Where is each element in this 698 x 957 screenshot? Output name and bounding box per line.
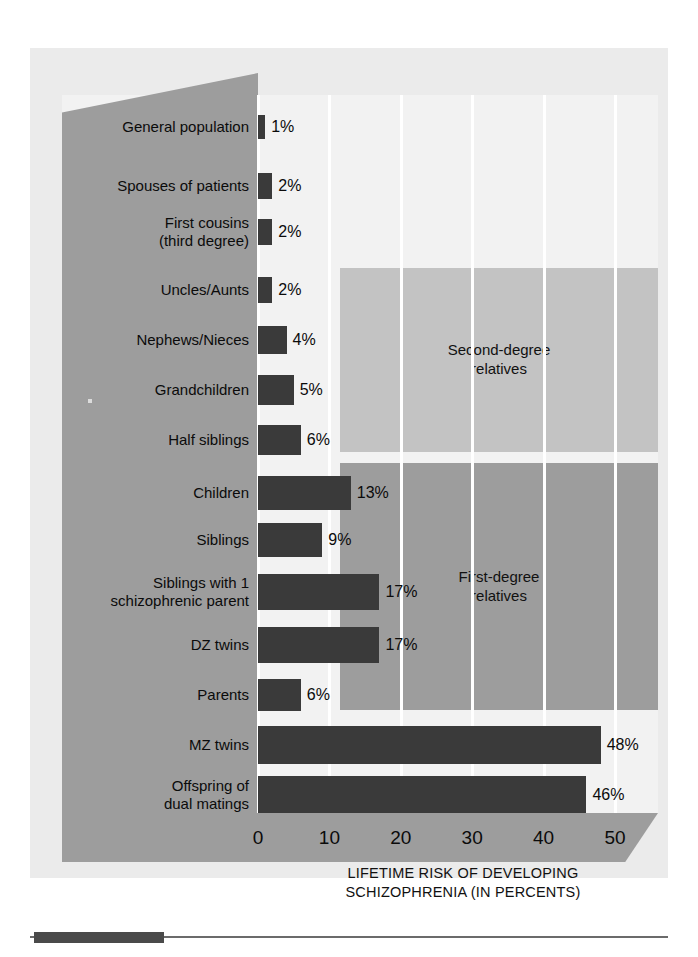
bar-row-label: DZ twins — [62, 636, 258, 654]
x-axis-tick-labels: 01020304050 — [0, 813, 698, 862]
bar-container: 5% — [258, 367, 658, 413]
bar — [258, 679, 301, 711]
x-tick-label-20: 20 — [390, 827, 411, 849]
bar-value-label: 2% — [278, 177, 301, 195]
bar-value-label: 9% — [328, 531, 351, 549]
bar — [258, 726, 601, 764]
bar-container: 17% — [258, 569, 658, 615]
bar-row-label: General population — [62, 118, 258, 136]
bar-container: 6% — [258, 672, 658, 718]
bar-row-label-line1: Uncles/Aunts — [62, 281, 249, 299]
bar-row-label-line1: MZ twins — [62, 736, 249, 754]
bar-row: Half siblings6% — [62, 417, 658, 463]
bar-value-label: 13% — [357, 484, 389, 502]
bar-value-label: 5% — [300, 381, 323, 399]
bar-row-label: Half siblings — [62, 431, 258, 449]
bar-value-label: 6% — [307, 431, 330, 449]
bar — [258, 115, 265, 139]
bar-row-label: Children — [62, 484, 258, 502]
chart-page: Second-degree relatives First-degree rel… — [0, 0, 698, 957]
bar-container: 48% — [258, 722, 658, 768]
bar-container: 1% — [258, 104, 658, 150]
bar-value-label: 1% — [271, 118, 294, 136]
bar — [258, 523, 322, 557]
bar-row-label-line1: Siblings — [62, 531, 249, 549]
bar-row: Offspring ofdual matings46% — [62, 772, 658, 818]
bar — [258, 173, 272, 199]
bar-row: DZ twins17% — [62, 622, 658, 668]
bar-row-label: First cousins(third degree) — [62, 214, 258, 249]
bar-row: Uncles/Aunts2% — [62, 267, 658, 313]
bar-container: 2% — [258, 267, 658, 313]
bar — [258, 219, 272, 245]
bar-row-label: Parents — [62, 686, 258, 704]
bar — [258, 326, 287, 354]
x-axis-title-line2: SCHIZOPHRENIA (IN PERCENTS) — [258, 883, 668, 902]
bar-row-label-line1: Half siblings — [62, 431, 249, 449]
bar-row-label-line2: schizophrenic parent — [62, 592, 249, 610]
bar-row: Parents6% — [62, 672, 658, 718]
bar-row: Grandchildren5% — [62, 367, 658, 413]
bar-row-label: Grandchildren — [62, 381, 258, 399]
bar-row-label-line1: Siblings with 1 — [62, 574, 249, 592]
bar-row-label: MZ twins — [62, 736, 258, 754]
bar-container: 9% — [258, 517, 658, 563]
bar-value-label: 2% — [278, 223, 301, 241]
bar-row-label-line1: Offspring of — [62, 777, 249, 795]
bar-row-label: Spouses of patients — [62, 177, 258, 195]
bar — [258, 574, 379, 610]
bar-row-label-line1: Parents — [62, 686, 249, 704]
bar-value-label: 48% — [607, 736, 639, 754]
bar-row: Siblings9% — [62, 517, 658, 563]
bar-container: 17% — [258, 622, 658, 668]
bar-row-label-line1: Spouses of patients — [62, 177, 249, 195]
bar-container: 2% — [258, 163, 658, 209]
bar-row-label: Uncles/Aunts — [62, 281, 258, 299]
bar-row-label: Siblings with 1schizophrenic parent — [62, 574, 258, 609]
x-tick-label-10: 10 — [319, 827, 340, 849]
bar-value-label: 2% — [278, 281, 301, 299]
bar-row-label-line1: First cousins — [62, 214, 249, 232]
x-tick-label-0: 0 — [253, 827, 264, 849]
bar-value-label: 46% — [592, 786, 624, 804]
bar-row: Nephews/Nieces4% — [62, 317, 658, 363]
bar — [258, 277, 272, 303]
bar-row: Spouses of patients2% — [62, 163, 658, 209]
bar — [258, 776, 586, 814]
bar-container: 2% — [258, 209, 658, 255]
bar-container: 6% — [258, 417, 658, 463]
bar-row-label-line1: General population — [62, 118, 249, 136]
bar-row-label: Nephews/Nieces — [62, 331, 258, 349]
bar-row-label-line1: Nephews/Nieces — [62, 331, 249, 349]
bar-container: 4% — [258, 317, 658, 363]
bar-row: General population1% — [62, 104, 658, 150]
bar-row-label-line2: (third degree) — [62, 232, 249, 250]
bar-row-label-line1: DZ twins — [62, 636, 249, 654]
bar-row: Siblings with 1schizophrenic parent17% — [62, 569, 658, 615]
bar — [258, 425, 301, 455]
bar-value-label: 4% — [293, 331, 316, 349]
bar-value-label: 6% — [307, 686, 330, 704]
bar — [258, 476, 351, 510]
bar-row-label-line2: dual matings — [62, 795, 249, 813]
bar-container: 46% — [258, 772, 658, 818]
bar-container: 13% — [258, 470, 658, 516]
bar-row: MZ twins48% — [62, 722, 658, 768]
bar — [258, 627, 379, 663]
bar-row-label-line1: Grandchildren — [62, 381, 249, 399]
x-tick-label-30: 30 — [462, 827, 483, 849]
bar-row: Children13% — [62, 470, 658, 516]
x-axis-title: LIFETIME RISK OF DEVELOPING SCHIZOPHRENI… — [258, 864, 668, 902]
bar-row: First cousins(third degree)2% — [62, 209, 658, 255]
bar-row-label-line1: Children — [62, 484, 249, 502]
bar-row-label: Siblings — [62, 531, 258, 549]
bar-row-label: Offspring ofdual matings — [62, 777, 258, 812]
bottom-dark-tab — [34, 932, 164, 943]
bar-value-label: 17% — [385, 636, 417, 654]
bar-value-label: 17% — [385, 583, 417, 601]
x-tick-label-40: 40 — [533, 827, 554, 849]
bar — [258, 375, 294, 405]
x-axis-title-line1: LIFETIME RISK OF DEVELOPING — [258, 864, 668, 883]
x-tick-label-50: 50 — [604, 827, 625, 849]
